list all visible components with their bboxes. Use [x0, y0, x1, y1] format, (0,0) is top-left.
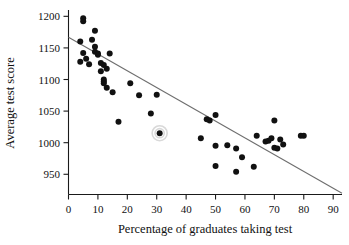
- y-tick-label: 1150: [38, 42, 60, 54]
- data-point: [148, 111, 154, 117]
- y-tick-label: 950: [44, 168, 61, 180]
- data-point: [301, 133, 307, 139]
- data-point: [274, 145, 280, 151]
- x-tick-label: 30: [151, 203, 163, 215]
- data-point: [213, 143, 219, 149]
- data-point: [80, 50, 86, 56]
- data-point: [157, 130, 163, 136]
- x-tick-label: 80: [298, 203, 310, 215]
- x-tick-label: 70: [269, 203, 281, 215]
- regression-line: [69, 37, 343, 193]
- x-axis-title: Percentage of graduates taking test: [118, 222, 293, 236]
- x-tick-label: 10: [92, 203, 104, 215]
- y-axis-title: Average test score: [3, 57, 17, 149]
- data-point: [95, 52, 101, 58]
- data-point: [98, 68, 104, 74]
- x-tick-label: 90: [328, 203, 340, 215]
- data-point: [104, 66, 110, 72]
- y-tick-label: 1050: [38, 105, 61, 117]
- y-axis-ticks: 95010001050110011501200: [38, 10, 69, 180]
- x-tick-label: 40: [181, 203, 193, 215]
- data-point: [107, 51, 113, 57]
- x-tick-label: 0: [66, 203, 72, 215]
- data-points-group: [77, 15, 307, 175]
- plot-canvas: 95010001050110011501200 0102030405060708…: [0, 0, 349, 245]
- scatter-plot-figure: 95010001050110011501200 0102030405060708…: [0, 0, 349, 245]
- data-point: [80, 15, 86, 21]
- data-point: [104, 85, 110, 91]
- data-point: [86, 61, 92, 67]
- data-point: [224, 142, 230, 148]
- y-tick-label: 1100: [38, 74, 60, 86]
- data-point: [207, 118, 213, 124]
- data-point: [239, 154, 245, 160]
- data-point: [115, 119, 121, 125]
- data-point: [213, 163, 219, 169]
- x-tick-label: 50: [210, 203, 222, 215]
- data-point: [89, 37, 95, 43]
- data-point: [280, 142, 286, 148]
- data-point: [198, 135, 204, 141]
- data-point: [254, 133, 260, 139]
- y-tick-label: 1200: [38, 10, 61, 22]
- data-point: [268, 135, 274, 141]
- data-point: [154, 92, 160, 98]
- data-point: [127, 80, 133, 86]
- data-point: [233, 145, 239, 151]
- data-point: [83, 56, 89, 62]
- x-tick-label: 20: [122, 203, 134, 215]
- data-point: [136, 92, 142, 98]
- data-point: [251, 164, 257, 170]
- data-point: [77, 39, 83, 45]
- data-point: [271, 118, 277, 124]
- regression-line-group: [69, 37, 343, 193]
- data-point: [233, 169, 239, 175]
- data-point: [277, 137, 283, 143]
- x-tick-label: 60: [239, 203, 251, 215]
- y-tick-label: 1000: [38, 137, 61, 149]
- data-point: [77, 59, 83, 65]
- data-point: [110, 89, 116, 95]
- data-point: [213, 112, 219, 118]
- x-axis-ticks: 0102030405060708090: [66, 195, 339, 216]
- data-point: [92, 28, 98, 34]
